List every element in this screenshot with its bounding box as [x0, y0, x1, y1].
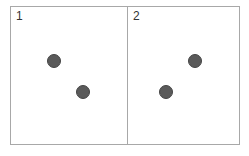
panel-1-dot-upper-left: [47, 54, 61, 68]
panel-1-label: 1: [16, 9, 23, 23]
panel-1-dot-lower-right: [76, 85, 90, 99]
panel-2-label: 2: [133, 9, 140, 23]
diagram-frame: 1 2: [10, 6, 240, 145]
panel-2-dot-upper-right: [188, 54, 202, 68]
panel-2-dot-lower-left: [159, 85, 173, 99]
panel-2: 2: [128, 7, 239, 144]
panel-1: 1: [11, 7, 128, 144]
